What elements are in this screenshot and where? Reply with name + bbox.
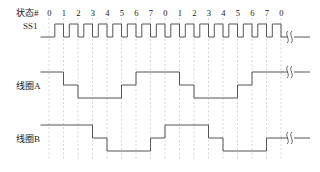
trace-coil-a bbox=[41, 72, 281, 98]
break-mark bbox=[291, 31, 293, 43]
break-mark bbox=[291, 132, 293, 144]
timing-diagram-figure: 状态# SS1 线圈A 线圈B 01234567012345670 bbox=[0, 0, 320, 172]
grid-lines bbox=[49, 18, 281, 160]
signal-traces bbox=[41, 24, 310, 151]
break-marks bbox=[287, 31, 293, 144]
trace-coil-b bbox=[41, 125, 281, 151]
trace-ss1 bbox=[41, 24, 281, 37]
waveform-canvas bbox=[0, 0, 320, 172]
break-mark bbox=[291, 66, 293, 78]
